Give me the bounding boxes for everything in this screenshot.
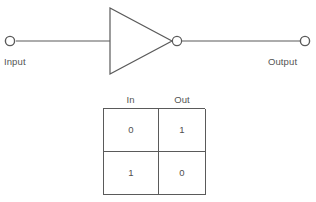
gate-schematic-svg: [0, 0, 316, 92]
truth-table-header-out: Out: [158, 95, 206, 105]
truth-table-header-row: In Out: [103, 91, 206, 108]
truth-table: In Out 0 1 1 0: [103, 91, 206, 195]
inversion-bubble-icon: [172, 36, 181, 45]
inverter-triangle-icon: [110, 8, 172, 74]
truth-table-cell-out: 1: [159, 109, 206, 152]
input-terminal-icon: [5, 36, 14, 45]
input-port-label: Input: [4, 57, 26, 67]
truth-table-header-in: In: [103, 95, 158, 105]
truth-table-cell-in: 1: [104, 152, 159, 195]
table-row: 1 0: [104, 152, 205, 195]
truth-table-cell-in: 0: [104, 109, 159, 152]
truth-table-cell-out: 0: [159, 152, 206, 195]
output-port-label: Output: [268, 57, 297, 67]
inverter-diagram: Input Output In Out 0 1 1 0: [0, 0, 316, 202]
table-row: 0 1: [104, 109, 205, 152]
output-terminal-icon: [300, 36, 309, 45]
truth-table-grid: 0 1 1 0: [103, 108, 205, 195]
